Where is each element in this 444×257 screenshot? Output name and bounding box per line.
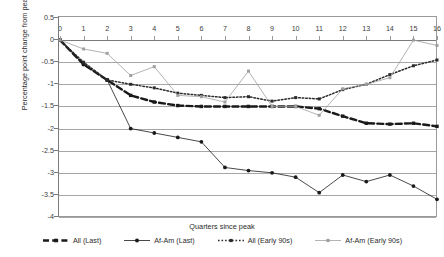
data-point <box>176 136 180 140</box>
data-point <box>341 173 345 177</box>
y-tick-label: 0 <box>0 35 54 44</box>
data-point <box>365 83 368 86</box>
x-tick-mark <box>343 36 344 40</box>
data-point <box>412 122 415 125</box>
y-tick-label: -3 <box>0 167 54 176</box>
data-point <box>317 191 321 195</box>
series-all-last <box>58 38 438 128</box>
x-tick-label: 15 <box>409 24 417 33</box>
x-tick-mark <box>437 36 438 40</box>
legend-item-af-am-last[interactable]: Af-Am (Last) <box>123 236 194 245</box>
data-point <box>318 114 321 117</box>
data-point <box>294 175 298 179</box>
legend-swatch-af-am-early-90s <box>314 236 342 245</box>
x-tick-label: 7 <box>223 24 227 33</box>
y-tick-label: -4 <box>0 212 54 221</box>
x-tick-label: 4 <box>152 24 156 33</box>
data-point <box>153 86 156 89</box>
data-point <box>388 76 391 79</box>
legend-item-all-early-90s[interactable]: All (Early 90s) <box>217 236 293 245</box>
data-point <box>271 105 274 108</box>
data-point <box>271 100 274 103</box>
data-point <box>294 96 297 99</box>
chart-container: Percentage point change from peak 0.50-0… <box>0 0 444 257</box>
data-point <box>200 105 203 108</box>
legend-item-all-last[interactable]: All (Last) <box>42 236 101 245</box>
data-point <box>223 96 226 99</box>
data-point <box>247 105 250 108</box>
x-tick-mark <box>225 36 226 40</box>
data-point <box>318 97 321 100</box>
data-point <box>412 184 416 188</box>
x-tick-label: 12 <box>339 24 347 33</box>
y-tick-label: -3.5 <box>0 189 54 198</box>
legend-label: All (Last) <box>73 236 101 245</box>
y-tick-label: 0.5 <box>0 13 54 22</box>
x-tick-mark <box>390 36 391 40</box>
data-point <box>82 47 85 50</box>
x-tick-label: 8 <box>247 24 251 33</box>
legend-swatch-af-am-last <box>123 236 151 245</box>
x-tick-mark <box>296 36 297 40</box>
data-point <box>388 122 391 125</box>
x-tick-label: 16 <box>433 24 441 33</box>
data-point <box>153 100 156 103</box>
chart-legend: All (Last)Af-Am (Last)All (Early 90s)Af-… <box>0 236 444 245</box>
x-tick-label: 11 <box>315 24 322 33</box>
x-tick-mark <box>154 36 155 40</box>
data-point <box>341 87 344 90</box>
data-point <box>412 64 415 67</box>
legend-item-af-am-early-90s[interactable]: Af-Am (Early 90s) <box>314 236 402 245</box>
data-point <box>436 44 439 47</box>
data-point <box>223 166 227 170</box>
x-tick-mark <box>131 36 132 40</box>
x-tick-mark <box>60 36 61 40</box>
x-tick-mark <box>84 36 85 40</box>
plot-area: 012345678910111213141516 <box>58 16 437 217</box>
x-tick-label: 6 <box>199 24 203 33</box>
x-tick-label: 14 <box>386 24 394 33</box>
data-point <box>129 127 133 131</box>
data-point <box>106 78 109 81</box>
series-line <box>60 40 437 199</box>
x-tick-label: 3 <box>129 24 133 33</box>
y-tick-label: -2 <box>0 123 54 132</box>
legend-label: All (Early 90s) <box>248 236 293 245</box>
y-tick-label: -1 <box>0 79 54 88</box>
x-tick-mark <box>366 36 367 40</box>
x-tick-mark <box>319 36 320 40</box>
data-point <box>317 107 320 110</box>
x-tick-mark <box>107 36 108 40</box>
series-layer <box>59 17 438 218</box>
series-line <box>60 40 437 126</box>
data-point <box>388 173 392 177</box>
legend-swatch-all-last <box>42 236 70 245</box>
x-tick-label: 13 <box>362 24 370 33</box>
data-point <box>199 140 203 144</box>
data-point <box>294 105 297 108</box>
x-tick-mark <box>249 36 250 40</box>
y-axis-line <box>58 16 59 217</box>
y-tick-label: -2.5 <box>0 145 54 154</box>
data-point <box>106 52 109 55</box>
x-tick-label: 5 <box>176 24 180 33</box>
x-tick-label: 1 <box>82 24 86 33</box>
data-point <box>247 70 250 73</box>
data-point <box>129 74 132 77</box>
data-point <box>223 101 226 104</box>
legend-label: Af-Am (Last) <box>154 236 194 245</box>
data-point <box>435 125 438 128</box>
x-tick-label: 10 <box>292 24 300 33</box>
x-tick-label: 2 <box>105 24 109 33</box>
data-point <box>436 59 439 62</box>
data-point <box>223 105 226 108</box>
data-point <box>364 180 368 184</box>
series-af-am-last <box>58 38 439 201</box>
y-tick-label: -0.5 <box>0 57 54 66</box>
legend-swatch-all-early-90s <box>217 236 245 245</box>
x-axis-title: Quarters since peak <box>0 222 444 231</box>
data-point <box>129 83 132 86</box>
x-tick-label: 9 <box>270 24 274 33</box>
data-point <box>270 171 274 175</box>
data-point <box>176 94 179 97</box>
